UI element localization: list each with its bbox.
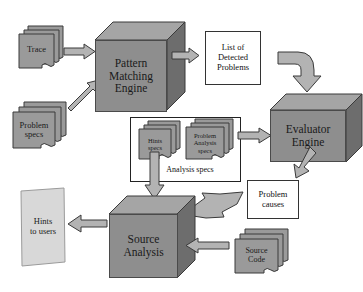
arrow-analysis-specs-to-evaluator (238, 128, 272, 144)
arrow-source-analysis-to-hints (68, 215, 108, 233)
page-hints-to-users: Hints to users (19, 188, 66, 267)
arrow-problem-causes-to-source-analysis (189, 190, 245, 222)
arrow-trace-to-pattern-matching (64, 44, 96, 60)
engine-evaluator: Evaluator Engine (270, 94, 346, 146)
arrow-evaluator-to-problem-causes (288, 146, 318, 180)
engine-source-analysis-label: Source Analysis (109, 214, 178, 278)
document-problem-specs: Problem specs (10, 100, 70, 152)
arrow-list-to-evaluator (276, 50, 324, 94)
engine-pattern-matching: Pattern Matching Engine (95, 22, 167, 94)
arrow-hints-specs-to-source-analysis (145, 152, 165, 200)
engine-pattern-matching-label: Pattern Matching Engine (95, 40, 167, 112)
document-trace-label: Trace (19, 40, 54, 60)
diagram-canvas: Trace Problem specs Pattern Mat (0, 0, 363, 292)
document-trace: Trace (14, 24, 66, 72)
document-source-code: Source Code (232, 228, 292, 278)
document-problem-analysis-specs-label: Problem Analysis specs (186, 129, 224, 157)
page-hints-to-users-label: Hints to users (21, 214, 65, 240)
arrow-pattern-matching-to-list (172, 48, 200, 64)
box-list-of-detected-problems: List of Detected Problems (205, 31, 261, 85)
arrow-source-code-to-source-analysis (186, 238, 230, 254)
box-problem-causes: Problem causes (247, 180, 299, 219)
document-source-code-label: Source Code (235, 244, 278, 268)
document-problem-analysis-specs: Problem Analysis specs (183, 118, 237, 166)
document-problem-specs-label: Problem specs (13, 117, 55, 143)
engine-source-analysis: Source Analysis (109, 196, 178, 260)
